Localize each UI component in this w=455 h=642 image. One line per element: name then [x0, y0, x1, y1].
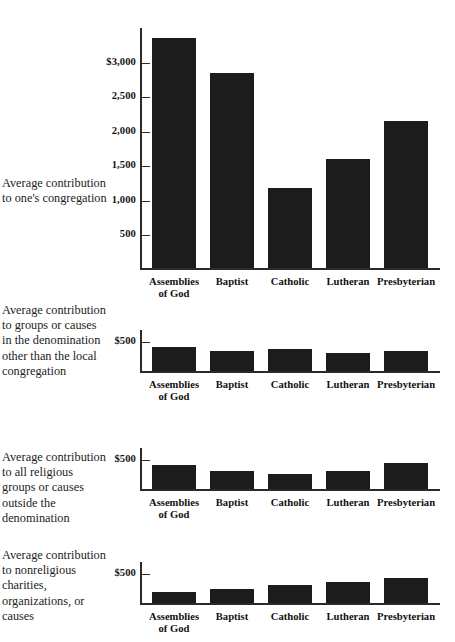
plot-area-3: $500Assemblies of GodBaptistCatholicLuth…	[140, 448, 440, 491]
bar	[326, 353, 370, 371]
y-axis-tick	[141, 342, 150, 343]
y-axis-tick	[141, 574, 150, 575]
bar	[152, 38, 196, 268]
y-axis-tick	[141, 460, 150, 461]
bar	[384, 463, 428, 489]
bar	[152, 347, 196, 371]
y-axis-tick-label: $3,000	[88, 56, 136, 67]
bar	[210, 589, 254, 603]
y-axis-tick	[141, 132, 150, 133]
bar	[268, 585, 312, 603]
x-axis-category-label: Presbyterian	[370, 611, 442, 623]
plot-area-1: 5001,0001,5002,0002,500$3,000Assemblies …	[140, 28, 440, 270]
bar	[326, 471, 370, 489]
bar	[384, 121, 428, 268]
y-axis-tick-label: $500	[88, 567, 136, 578]
y-axis-tick-label: 1,000	[88, 194, 136, 205]
y-axis-tick-label: 2,500	[88, 90, 136, 101]
bar	[384, 578, 428, 603]
y-axis-tick-label: 2,000	[88, 125, 136, 136]
y-axis-tick	[141, 63, 150, 64]
x-axis-category-label: Presbyterian	[370, 497, 442, 509]
x-axis-category-label: Presbyterian	[370, 379, 442, 391]
bar	[210, 471, 254, 489]
bar	[326, 159, 370, 268]
bar	[268, 188, 312, 268]
x-axis-category-label: Presbyterian	[370, 276, 442, 288]
y-axis-tick	[141, 97, 150, 98]
y-axis-tick-label: $500	[88, 335, 136, 346]
bar	[268, 349, 312, 371]
bar	[210, 73, 254, 268]
bar	[384, 351, 428, 371]
y-axis-tick-label: 500	[88, 228, 136, 239]
bar	[152, 592, 196, 603]
bar	[210, 351, 254, 371]
bar	[326, 582, 370, 603]
bar	[268, 474, 312, 489]
plot-area-4: $500Assemblies of GodBaptistCatholicLuth…	[140, 562, 440, 605]
y-axis-tick	[141, 201, 150, 202]
chart-figure: Average contribution to one's congregati…	[0, 0, 455, 642]
bar	[152, 465, 196, 489]
y-axis-tick	[141, 235, 150, 236]
plot-area-2: $500Assemblies of GodBaptistCatholicLuth…	[140, 330, 440, 373]
y-axis-tick-label: $500	[88, 453, 136, 464]
y-axis-tick-label: 1,500	[88, 159, 136, 170]
caption-panel-4: Average contribution to nonreligious cha…	[2, 548, 108, 624]
y-axis-tick	[141, 166, 150, 167]
